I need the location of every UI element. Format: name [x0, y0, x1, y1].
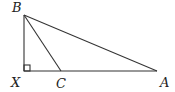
label-a: A — [159, 75, 169, 90]
segment-bc — [24, 15, 61, 71]
right-angle-marker — [24, 65, 30, 71]
segment-ba — [24, 15, 157, 71]
triangle-diagram: B X C A — [0, 0, 175, 92]
label-x: X — [10, 75, 21, 90]
label-b: B — [11, 0, 22, 15]
label-c: C — [56, 76, 66, 91]
